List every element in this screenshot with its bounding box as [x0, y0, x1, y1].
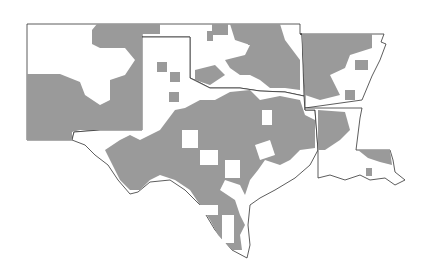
choropleth-map [0, 0, 425, 271]
